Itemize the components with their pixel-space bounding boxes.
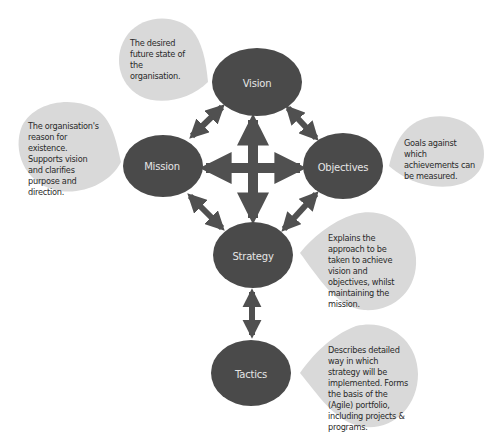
node-objectives-label: Objectives (318, 162, 369, 173)
node-vision-label: Vision (243, 78, 272, 89)
arrow-vision-objectives (288, 108, 316, 138)
arrow-objectives-strategy (284, 194, 316, 229)
callout-objectives-text: Goals against which achievements can be … (404, 138, 476, 182)
callout-strategy-text: Explains the approach to be taken to ach… (328, 233, 410, 310)
callout-vision-text: The desired future state of the organisa… (130, 38, 192, 82)
callout-tactics-text: Describes detailed way in which strategy… (328, 345, 412, 433)
arrow-mission-strategy (190, 196, 222, 228)
node-strategy-label: Strategy (232, 251, 273, 262)
node-tactics-label: Tactics (235, 369, 267, 380)
node-mission-label: Mission (144, 161, 180, 172)
arrow-vision-mission (192, 107, 222, 136)
four-way-cross-arrow (206, 120, 300, 218)
callout-mission-text: The organisation's reason for existence.… (28, 121, 104, 198)
